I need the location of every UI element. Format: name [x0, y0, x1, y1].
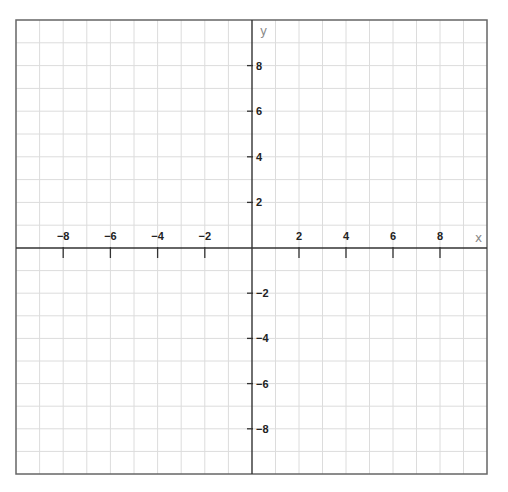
x-tick-label: −4	[151, 230, 164, 242]
x-tick-label: −8	[57, 230, 70, 242]
x-tick-label: −6	[104, 230, 117, 242]
x-tick-label: 4	[343, 230, 350, 242]
y-tick-label: −6	[256, 378, 269, 390]
x-tick-label: −2	[199, 230, 212, 242]
x-tick-label: 8	[437, 230, 443, 242]
y-tick-label: −4	[256, 332, 269, 344]
tick-labels: −8−6−4−224688642−2−4−6−8	[57, 60, 443, 435]
x-tick-label: 6	[390, 230, 396, 242]
y-tick-label: 4	[256, 151, 263, 163]
y-axis-label: y	[260, 24, 267, 38]
x-tick-label: 2	[296, 230, 302, 242]
y-tick-label: −2	[256, 287, 269, 299]
y-tick-label: 2	[256, 196, 262, 208]
y-tick-label: 6	[256, 105, 262, 117]
coordinate-plane: −8−6−4−224688642−2−4−6−8 x y	[0, 0, 508, 492]
x-axis-label: x	[475, 231, 482, 245]
y-tick-label: 8	[256, 60, 262, 72]
y-tick-label: −8	[256, 423, 269, 435]
